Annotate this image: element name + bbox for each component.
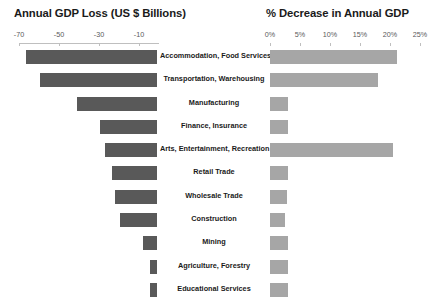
gdp-loss-bar: [120, 213, 157, 227]
gdp-loss-bar: [150, 283, 157, 297]
gdp-percent-decrease-bar: [270, 213, 285, 227]
left-axis: -70-50-30-10: [0, 30, 175, 44]
right-axis-tick-label: 15%: [353, 30, 367, 39]
left-axis-tick-label: -30: [94, 30, 104, 39]
category-label: Accommodation, Food Services: [160, 51, 268, 60]
right-axis-tick-label: 0%: [265, 30, 275, 39]
gdp-percent-decrease-bar: [270, 166, 288, 180]
chart-figure: Annual GDP Loss (US $ Billions) % Decrea…: [0, 0, 446, 305]
gdp-percent-decrease-bar: [270, 143, 393, 157]
gdp-loss-bar: [100, 120, 157, 134]
gdp-loss-bar: [105, 143, 157, 157]
right-axis-tick-label: 25%: [413, 30, 427, 39]
category-label: Mining: [160, 237, 268, 246]
chart-row: Arts, Entertainment, Recreation: [0, 139, 446, 162]
chart-row: Accommodation, Food Services: [0, 46, 446, 69]
category-label: Agriculture, Forestry: [160, 261, 268, 270]
right-axis: 0%5%10%15%20%25%: [255, 30, 446, 44]
gdp-loss-bar: [115, 190, 157, 204]
gdp-loss-bar: [143, 236, 157, 250]
chart-row: Manufacturing: [0, 93, 446, 116]
category-label: Construction: [160, 214, 268, 223]
gdp-loss-bar: [150, 260, 157, 274]
gdp-loss-bar: [26, 50, 157, 64]
category-label: Arts, Entertainment, Recreation: [160, 144, 268, 153]
chart-row: Retail Trade: [0, 162, 446, 185]
category-label: Retail Trade: [160, 167, 268, 176]
gdp-percent-decrease-bar: [270, 236, 288, 250]
right-axis-tick-label: 5%: [295, 30, 305, 39]
left-axis-tick-label: -10: [134, 30, 144, 39]
chart-row: Finance, Insurance: [0, 116, 446, 139]
category-label: Wholesale Trade: [160, 191, 268, 200]
chart-row: Mining: [0, 232, 446, 255]
left-axis-line: [19, 43, 159, 44]
chart-row: Educational Services: [0, 279, 446, 302]
chart-row: Transportation, Warehousing: [0, 69, 446, 92]
chart-row: Wholesale Trade: [0, 186, 446, 209]
category-label: Transportation, Warehousing: [160, 74, 268, 83]
gdp-percent-decrease-bar: [270, 120, 288, 134]
gdp-percent-decrease-bar: [270, 73, 378, 87]
gdp-percent-decrease-bar: [270, 260, 288, 274]
chart-row: Construction: [0, 209, 446, 232]
left-axis-tick-label: -50: [54, 30, 64, 39]
gdp-loss-bar: [77, 97, 157, 111]
category-label: Educational Services: [160, 284, 268, 293]
category-label: Finance, Insurance: [160, 121, 268, 130]
gdp-percent-decrease-bar: [270, 50, 397, 64]
category-label: Manufacturing: [160, 98, 268, 107]
gdp-percent-decrease-bar: [270, 283, 288, 297]
chart-rows: Accommodation, Food ServicesTransportati…: [0, 46, 446, 302]
chart-row: Agriculture, Forestry: [0, 256, 446, 279]
right-axis-tick-label: 20%: [383, 30, 397, 39]
left-axis-tick-label: -70: [14, 30, 24, 39]
right-panel-title: % Decrease in Annual GDP: [266, 7, 409, 19]
gdp-percent-decrease-bar: [270, 97, 288, 111]
gdp-percent-decrease-bar: [270, 190, 287, 204]
gdp-loss-bar: [112, 166, 157, 180]
left-panel-title: Annual GDP Loss (US $ Billions): [14, 7, 186, 19]
right-axis-tick-label: 10%: [323, 30, 337, 39]
gdp-loss-bar: [40, 73, 157, 87]
